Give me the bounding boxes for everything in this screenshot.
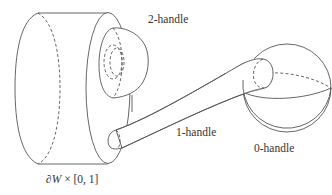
- collar-interval: × [0, 1]: [61, 173, 98, 185]
- cylinder-left-end-front: [15, 13, 38, 164]
- cylinder-left-end-hidden: [38, 13, 60, 164]
- label-two-handle: 2-handle: [148, 14, 188, 26]
- diagram-canvas: [0, 0, 332, 195]
- zero-handle-equator-back: [270, 73, 331, 88]
- handle-decomposition-figure: 2-handle 1-handle 0-handle ∂W × [0, 1]: [0, 0, 332, 195]
- label-collar: ∂W × [0, 1]: [46, 174, 98, 186]
- label-one-handle: 1-handle: [176, 127, 216, 139]
- label-zero-handle: 0-handle: [254, 143, 294, 155]
- collar-variable: W: [52, 173, 62, 185]
